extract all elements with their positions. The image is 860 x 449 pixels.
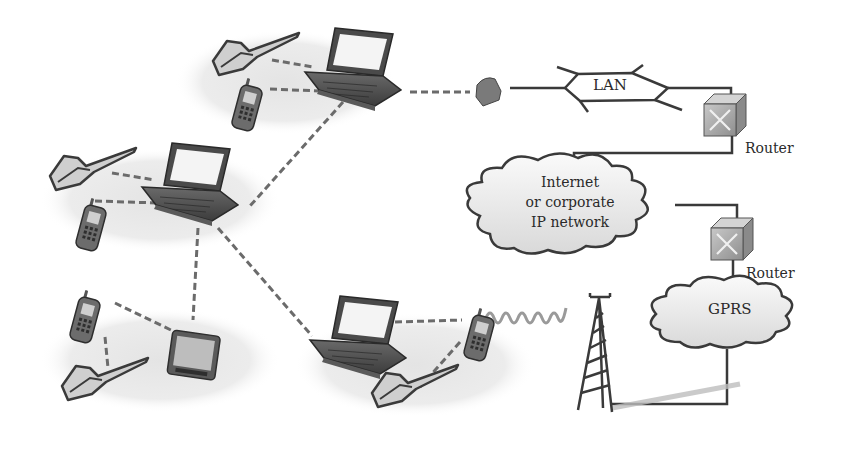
radio-wave bbox=[486, 308, 566, 323]
ip-network-label-line2: or corporate bbox=[515, 192, 625, 212]
router-bottom-label: Router bbox=[746, 265, 795, 281]
lan-to-router-line bbox=[668, 88, 731, 94]
pan-bottom-center-area bbox=[295, 313, 535, 417]
network-diagram: LAN bbox=[0, 0, 860, 449]
pda-icon bbox=[167, 330, 221, 380]
access-point-icon bbox=[476, 78, 501, 106]
router-top-label: Router bbox=[745, 140, 794, 156]
ip-network-label: Internet or corporate IP network bbox=[515, 172, 625, 232]
router-icon bbox=[711, 218, 753, 260]
antenna-tower-icon bbox=[578, 293, 612, 412]
ip-network-label-line3: IP network bbox=[515, 212, 625, 232]
router-icon bbox=[704, 94, 746, 136]
ip-network-label-line1: Internet bbox=[515, 172, 625, 192]
lan-label: LAN bbox=[593, 76, 627, 94]
gprs-label: GPRS bbox=[708, 300, 752, 318]
